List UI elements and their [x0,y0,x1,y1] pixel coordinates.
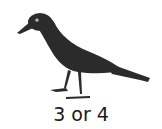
caption: 3 or 4 [0,104,162,124]
crow-icon [0,0,162,100]
